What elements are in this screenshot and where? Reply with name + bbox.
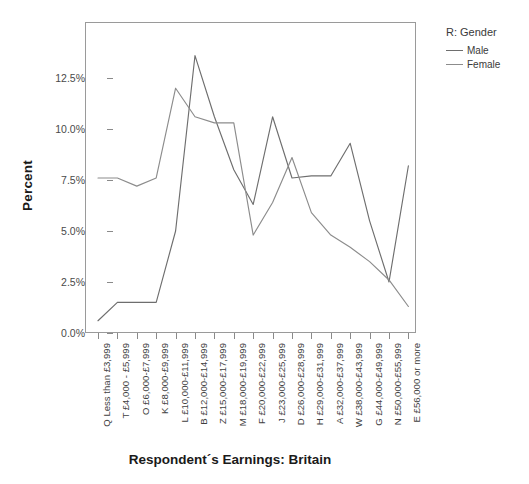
legend-label: Female: [467, 59, 500, 70]
x-tick-mark: [234, 333, 235, 339]
x-tick-label: Z £15,000-£17,999: [218, 343, 228, 424]
x-tick-mark: [195, 333, 196, 339]
x-tick-mark: [408, 333, 409, 339]
y-tick-label: 10.0%: [37, 124, 85, 135]
legend-swatch-icon: [446, 64, 463, 65]
x-tick-label: F £20,000-£22,999: [257, 343, 267, 424]
y-tick-mark: [107, 333, 113, 334]
legend: R: Gender MaleFemale: [446, 26, 529, 73]
x-tick-label: M £18,000-£19,999: [238, 343, 248, 426]
x-tick-mark: [176, 333, 177, 339]
x-tick-mark: [98, 333, 99, 339]
x-tick-mark: [370, 333, 371, 339]
x-tick-label: J £23,000-£25,999: [277, 343, 287, 423]
x-tick-mark: [273, 333, 274, 339]
legend-label: Male: [467, 45, 489, 56]
data-series-layer: [85, 22, 416, 333]
series-line-male: [98, 56, 408, 321]
y-tick-label: 5.0%: [37, 226, 85, 237]
x-tick-label: A £32,000-£37,999: [335, 343, 345, 424]
x-tick-mark: [350, 333, 351, 339]
y-tick-label: 12.5%: [37, 73, 85, 84]
y-tick-label: 0.0%: [37, 328, 85, 339]
legend-swatch-icon: [446, 50, 463, 51]
y-axis: 0.0%2.5%5.0%7.5%10.0%12.5%: [28, 0, 85, 484]
x-tick-label: K £8,000-£9,999: [160, 343, 170, 414]
chart-container: 0.0%2.5%5.0%7.5%10.0%12.5% Percent Q Les…: [0, 0, 529, 484]
x-tick-label: L £10,000-£11,999: [180, 343, 190, 423]
x-tick-mark: [253, 333, 254, 339]
legend-entries: MaleFemale: [446, 45, 529, 70]
y-tick-mark: [107, 180, 113, 181]
y-tick-mark: [107, 129, 113, 130]
series-line-female: [98, 88, 408, 306]
x-tick-mark: [117, 333, 118, 339]
y-tick-mark: [107, 231, 113, 232]
y-axis-title: Percent: [20, 141, 35, 231]
x-tick-label: D £26,000-£28,999: [296, 343, 306, 425]
legend-item-male: Male: [446, 45, 529, 56]
legend-item-female: Female: [446, 59, 529, 70]
y-tick-mark: [107, 78, 113, 79]
x-axis-title: Respondent´s Earnings: Britain: [0, 452, 460, 467]
x-tick-label: W £38,000-£43,999: [354, 343, 364, 427]
y-tick-label: 7.5%: [37, 175, 85, 186]
x-tick-mark: [156, 333, 157, 339]
y-tick-label: 2.5%: [37, 277, 85, 288]
x-tick-label: N £50,000-£55,999: [393, 343, 403, 425]
x-tick-label: G £44,000-£49,999: [374, 343, 384, 426]
x-tick-label: O £6,000-£7,999: [141, 343, 151, 415]
x-tick-label: E £56,000 or more: [412, 343, 422, 422]
x-tick-label: B £12,000-£14,999: [199, 343, 209, 425]
x-tick-mark: [389, 333, 390, 339]
x-tick-mark: [311, 333, 312, 339]
x-tick-mark: [137, 333, 138, 339]
legend-title: R: Gender: [446, 26, 529, 38]
x-tick-mark: [292, 333, 293, 339]
x-tick-label: Q Less than £3,999: [102, 343, 112, 427]
y-tick-mark: [107, 282, 113, 283]
x-tick-label: H £29,000-£31,999: [315, 343, 325, 425]
x-tick-mark: [331, 333, 332, 339]
x-tick-mark: [214, 333, 215, 339]
x-tick-label: T £4,000 - £5,999: [121, 343, 131, 419]
